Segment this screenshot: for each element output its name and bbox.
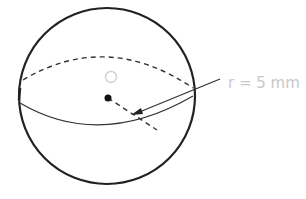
radius-label: r = 5 mm (228, 74, 300, 92)
sphere-diagram: r = 5 mm (0, 0, 306, 199)
radius-arrow (137, 79, 220, 113)
arrow-head-icon (131, 108, 143, 115)
center-label-O (106, 72, 117, 83)
center-point (105, 95, 112, 102)
left-edge-mark (19, 88, 20, 100)
